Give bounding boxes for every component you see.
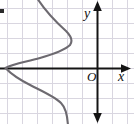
x-axis-label: x	[117, 69, 125, 84]
y-axis-label: y	[82, 6, 91, 21]
coordinate-plane-svg: y x O	[0, 0, 134, 124]
origin-label: O	[87, 69, 97, 84]
graph-figure: y x O	[0, 0, 134, 124]
corner-mark-icon	[0, 9, 4, 13]
